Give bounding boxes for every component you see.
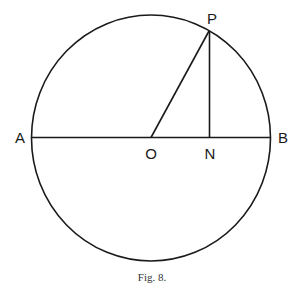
- geometry-figure: P A B O N Fig. 8.: [0, 0, 300, 290]
- label-b: B: [278, 129, 288, 146]
- label-n: N: [205, 145, 216, 162]
- radius-op: [151, 31, 209, 138]
- label-o: O: [145, 145, 157, 162]
- label-p: P: [207, 10, 217, 27]
- figure-caption: Fig. 8.: [138, 271, 167, 283]
- label-a: A: [15, 129, 25, 146]
